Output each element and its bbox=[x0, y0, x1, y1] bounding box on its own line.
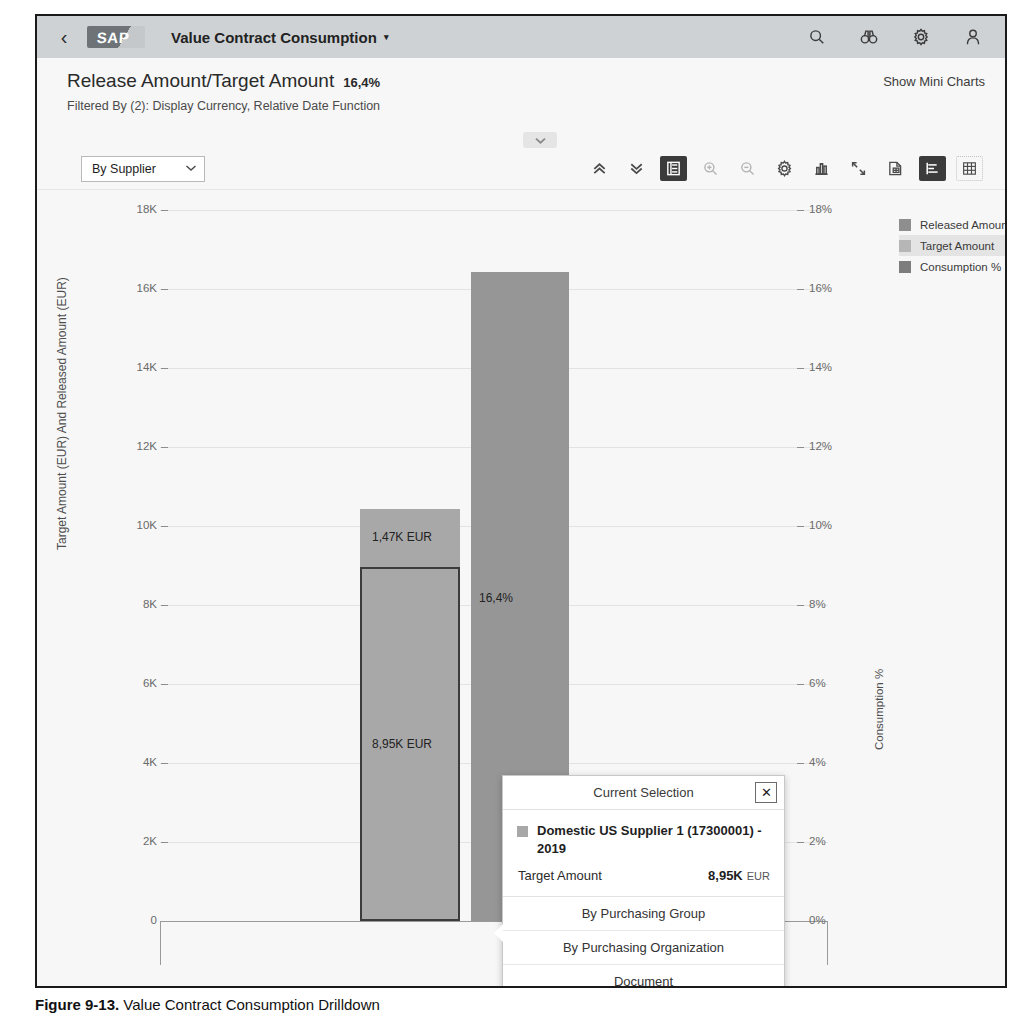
y-tick-left: 4K bbox=[95, 756, 157, 768]
y-tick-left: 14K bbox=[95, 361, 157, 373]
popover-context: Domestic US Supplier 1 (17300001) - 2019 bbox=[517, 822, 770, 857]
tick-dash bbox=[797, 368, 804, 369]
chevron-down-icon: ▾ bbox=[384, 32, 389, 42]
legend-toggle-icon[interactable] bbox=[660, 156, 687, 181]
y-tick-right: 4% bbox=[809, 756, 861, 768]
legend-label: Released Amount bbox=[920, 219, 1007, 231]
filter-summary[interactable]: Filtered By (2): Display Currency, Relat… bbox=[67, 99, 983, 113]
chevron-down-icon bbox=[185, 163, 197, 174]
chart-view-icon[interactable] bbox=[919, 156, 946, 181]
sap-logo[interactable]: SAP bbox=[87, 26, 145, 48]
sap-logo-text: SAP bbox=[96, 29, 130, 46]
legend-swatch-icon bbox=[899, 219, 911, 231]
popover-title: Current Selection bbox=[593, 785, 693, 800]
popover-header: Current Selection ✕ bbox=[503, 776, 784, 810]
chart-type-icon[interactable] bbox=[808, 156, 835, 181]
popover-action-by-purchasing-organization[interactable]: By Purchasing Organization bbox=[503, 931, 784, 965]
tick-dash bbox=[161, 842, 168, 843]
fullscreen-icon[interactable] bbox=[845, 156, 872, 181]
popover-body: Domestic US Supplier 1 (17300001) - 2019… bbox=[503, 810, 784, 897]
screenshot-frame: ‹ SAP Value Contract Consumption ▾ bbox=[35, 14, 1007, 988]
expand-all-icon[interactable] bbox=[623, 156, 650, 181]
legend-swatch-icon bbox=[899, 240, 911, 252]
popover-measure-value: 8,95K bbox=[708, 868, 743, 883]
gridline bbox=[160, 210, 828, 211]
y-axis-right-title: Consumption % bbox=[873, 669, 885, 750]
tick-dash bbox=[161, 289, 168, 290]
y-tick-left: 2K bbox=[95, 835, 157, 847]
dimension-select[interactable]: By Supplier bbox=[81, 156, 205, 182]
tick-dash bbox=[797, 289, 804, 290]
y-tick-right: 2% bbox=[809, 835, 861, 847]
bar-label-released-amount: 1,47K EUR bbox=[372, 530, 432, 544]
shell-bar-actions bbox=[807, 27, 991, 47]
bar-label-consumption-percent: 16,4% bbox=[479, 591, 513, 605]
save-as-tile-icon[interactable] bbox=[882, 156, 909, 181]
tick-dash bbox=[161, 210, 168, 211]
y-tick-right: 6% bbox=[809, 677, 861, 689]
popover-action-document[interactable]: Document bbox=[503, 965, 784, 988]
tick-dash bbox=[797, 842, 804, 843]
settings-gear-icon[interactable] bbox=[771, 156, 798, 181]
user-icon[interactable] bbox=[963, 27, 983, 47]
y-tick-right: 0% bbox=[809, 914, 861, 926]
popover-measure-unit: EUR bbox=[747, 870, 770, 882]
app-title[interactable]: Value Contract Consumption ▾ bbox=[171, 29, 389, 46]
y-tick-right: 10% bbox=[809, 519, 861, 531]
tick-dash bbox=[797, 605, 804, 606]
tick-dash bbox=[161, 526, 168, 527]
tick-dash bbox=[161, 605, 168, 606]
y-tick-right: 14% bbox=[809, 361, 861, 373]
y-tick-right: 12% bbox=[809, 440, 861, 452]
x-axis-left-cap bbox=[160, 921, 161, 965]
app-title-text: Value Contract Consumption bbox=[171, 29, 377, 46]
show-mini-charts-link[interactable]: Show Mini Charts bbox=[883, 74, 985, 89]
search-icon[interactable] bbox=[807, 27, 827, 47]
y-tick-left: 0 bbox=[95, 914, 157, 926]
page-root: ‹ SAP Value Contract Consumption ▾ bbox=[0, 0, 1036, 1020]
tick-dash bbox=[161, 368, 168, 369]
chart-toolbar-icons bbox=[586, 156, 983, 181]
dimension-select-label: By Supplier bbox=[92, 162, 156, 176]
figure-caption: Figure 9-13. Value Contract Consumption … bbox=[35, 996, 380, 1013]
tick-dash bbox=[161, 684, 168, 685]
zoom-in-icon[interactable] bbox=[697, 156, 724, 181]
legend-item-target-amount[interactable]: Target Amount bbox=[899, 235, 1007, 256]
popover-action-by-purchasing-group[interactable]: By Purchasing Group bbox=[503, 897, 784, 931]
tick-dash bbox=[797, 210, 804, 211]
y-tick-left: 16K bbox=[95, 282, 157, 294]
close-icon[interactable]: ✕ bbox=[755, 782, 777, 803]
x-axis-right-cap bbox=[827, 921, 828, 965]
series-swatch-icon bbox=[517, 826, 528, 837]
legend-swatch-icon bbox=[899, 261, 911, 273]
collapse-all-icon[interactable] bbox=[586, 156, 613, 181]
y-tick-right: 8% bbox=[809, 598, 861, 610]
collapse-header-handle[interactable] bbox=[523, 132, 557, 148]
y-tick-left: 12K bbox=[95, 440, 157, 452]
page-title: Release Amount/Target Amount 16,4% bbox=[67, 70, 983, 92]
zoom-out-icon[interactable] bbox=[734, 156, 761, 181]
popover-measure-label: Target Amount bbox=[518, 868, 602, 883]
legend-item-consumption-percent[interactable]: Consumption % bbox=[899, 256, 1007, 277]
tick-dash bbox=[797, 526, 804, 527]
tick-dash bbox=[161, 447, 168, 448]
gear-icon[interactable] bbox=[911, 27, 931, 47]
tick-dash bbox=[161, 763, 168, 764]
tick-dash bbox=[797, 684, 804, 685]
popover-measure-row: Target Amount 8,95K EUR bbox=[517, 868, 770, 883]
chart-plot-area: Target Amount (EUR) And Released Amount … bbox=[37, 190, 1005, 986]
current-selection-popover: Current Selection ✕ Domestic US Supplier… bbox=[502, 775, 785, 988]
tick-dash bbox=[797, 447, 804, 448]
kpi-value: 16,4% bbox=[343, 75, 380, 90]
y-tick-right: 16% bbox=[809, 282, 861, 294]
page-title-text: Release Amount/Target Amount bbox=[67, 70, 334, 92]
y-tick-right: 18% bbox=[809, 203, 861, 215]
legend-item-released-amount[interactable]: Released Amount bbox=[899, 214, 1007, 235]
legend-label: Target Amount bbox=[920, 240, 994, 252]
y-axis-left-title: Target Amount (EUR) And Released Amount … bbox=[55, 277, 69, 550]
table-view-icon[interactable] bbox=[956, 156, 983, 181]
binoculars-icon[interactable] bbox=[859, 27, 879, 47]
figure-caption-text: Value Contract Consumption Drilldown bbox=[119, 996, 380, 1013]
chevron-left-icon[interactable]: ‹ bbox=[51, 27, 77, 47]
popover-context-text: Domestic US Supplier 1 (17300001) - 2019 bbox=[537, 822, 770, 857]
